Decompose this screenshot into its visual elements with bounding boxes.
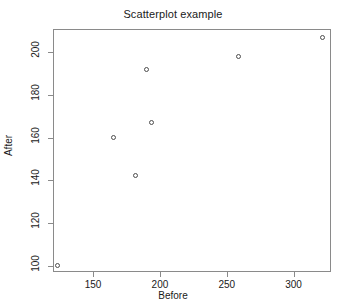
y-tick-mark [48, 95, 53, 96]
data-point [236, 54, 241, 59]
x-tick-label: 150 [85, 279, 102, 290]
y-tick-label: 100 [24, 258, 46, 269]
data-point [144, 67, 149, 72]
y-tick-label: 160 [24, 130, 46, 141]
x-tick-mark [93, 272, 94, 277]
x-tick-mark [294, 272, 295, 277]
y-axis-label: After [3, 124, 14, 168]
y-tick-mark [48, 180, 53, 181]
data-point [111, 135, 116, 140]
data-point [320, 35, 325, 40]
data-point [55, 263, 60, 268]
y-tick-label: 120 [24, 215, 46, 226]
x-tick-mark [227, 272, 228, 277]
y-tick-label: 200 [24, 44, 46, 55]
x-tick-label: 250 [218, 279, 235, 290]
chart-title: Scatterplot example [0, 8, 346, 20]
y-tick-mark [48, 52, 53, 53]
y-tick-label: 140 [24, 172, 46, 183]
scatterplot-figure: Scatterplot example Before After 1502002… [0, 0, 346, 308]
data-point [133, 173, 138, 178]
data-point [149, 120, 154, 125]
plot-area [53, 29, 331, 272]
x-tick-mark [160, 272, 161, 277]
y-tick-label: 180 [24, 87, 46, 98]
y-tick-mark [48, 223, 53, 224]
x-tick-label: 200 [152, 279, 169, 290]
x-axis-label: Before [0, 290, 346, 301]
y-tick-mark [48, 266, 53, 267]
y-tick-mark [48, 138, 53, 139]
x-tick-label: 300 [285, 279, 302, 290]
